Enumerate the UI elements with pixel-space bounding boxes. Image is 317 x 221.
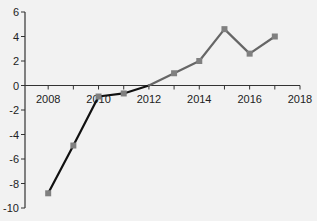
data-point-marker <box>70 143 76 149</box>
x-tick-label: 2008 <box>36 93 60 105</box>
y-tick-label: 2 <box>13 55 19 67</box>
x-tick-label: 2012 <box>137 93 161 105</box>
y-tick-label: 0 <box>13 80 19 92</box>
series-line-segment <box>174 61 199 73</box>
y-tick-label: 6 <box>13 6 19 18</box>
data-point-marker <box>247 51 253 57</box>
data-point-marker <box>221 26 227 32</box>
data-point-marker <box>171 70 177 76</box>
data-point-marker <box>196 58 202 64</box>
line-chart: 6420-2-4-6-8-10200820102012201420162018 <box>0 0 317 221</box>
series-line-segment <box>149 73 174 85</box>
data-point-marker <box>96 94 102 100</box>
x-tick-label: 2014 <box>187 93 211 105</box>
chart-axes: 6420-2-4-6-8-10200820102012201420162018 <box>3 6 312 214</box>
y-tick-label: -2 <box>9 104 19 116</box>
series-line-segment <box>48 146 73 194</box>
chart-plot-area <box>45 26 278 196</box>
x-tick-label: 2016 <box>237 93 261 105</box>
y-tick-label: -6 <box>9 153 19 165</box>
data-point-marker <box>121 90 127 96</box>
x-tick-label: 2018 <box>288 93 312 105</box>
y-tick-label: -10 <box>3 202 19 214</box>
series-line-segment <box>250 37 275 54</box>
y-tick-label: 4 <box>13 31 19 43</box>
y-tick-label: -4 <box>9 129 19 141</box>
data-point-marker <box>45 190 51 196</box>
series-line-segment <box>224 29 249 54</box>
data-point-marker <box>272 34 278 40</box>
series-line-segment <box>199 29 224 61</box>
y-tick-label: -8 <box>9 178 19 190</box>
